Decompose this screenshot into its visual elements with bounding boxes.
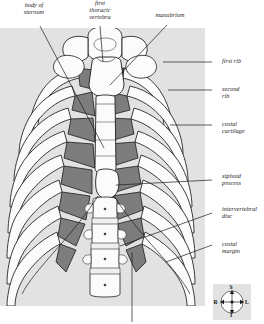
label-first-thoracic-vertebra: first thoracic vertebra <box>76 0 124 20</box>
vertebra-marker-1 <box>104 208 106 210</box>
vertebra-marker-4 <box>104 284 106 286</box>
compass-label-right: R <box>214 300 218 306</box>
label-first-rib: first rib <box>222 58 262 65</box>
orientation-compass: S I R L <box>213 284 251 320</box>
intervertebral-disc-3 <box>90 268 120 274</box>
manubrium <box>89 57 124 97</box>
label-costal-cartilage: costal cartilage <box>222 121 264 135</box>
clavicular-facet-right <box>126 55 157 78</box>
vertebra-body-t1 <box>88 27 122 61</box>
clavicular-facet-left <box>53 55 84 78</box>
vertebra-marker-3 <box>104 258 106 260</box>
xiphoid-process <box>96 169 119 198</box>
manubrium-body <box>89 57 124 97</box>
compass-label-inferior: I <box>230 313 232 319</box>
sternum-body-shape <box>95 95 116 174</box>
label-manubrium: manubrium <box>143 12 197 19</box>
label-costal-margin: costal margin <box>222 241 264 255</box>
sternum-body <box>95 95 116 174</box>
label-intervertebral-disc: intervertebral disc <box>222 206 264 220</box>
compass-label-superior: S <box>230 285 233 291</box>
label-xiphoid-process: xiphoid process <box>222 173 264 187</box>
intervertebral-disc-1 <box>92 218 118 224</box>
compass-label-left: L <box>245 300 249 306</box>
xiphoid-shape <box>96 169 119 198</box>
thoracic-cage-illustration <box>0 0 264 324</box>
vertebra-marker-2 <box>104 233 106 235</box>
figure-page: body of sternum first thoracic vertebra … <box>0 0 264 324</box>
label-second-rib: second rib <box>222 86 262 100</box>
label-body-of-sternum: body of sternum <box>8 2 60 16</box>
compass-center-dot <box>230 300 233 303</box>
intervertebral-disc-2 <box>91 243 119 249</box>
